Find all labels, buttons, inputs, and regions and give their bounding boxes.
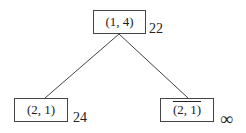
right-child-node: (2, 1) xyxy=(160,98,214,122)
edge-root-left xyxy=(45,34,119,98)
root-node-cost: 22 xyxy=(149,21,163,37)
root-node: (1, 4) xyxy=(93,10,146,34)
edge-root-right xyxy=(119,34,188,98)
root-node-label: (1, 4) xyxy=(105,14,133,30)
left-child-label: (2, 1) xyxy=(27,102,55,118)
left-child-cost: 24 xyxy=(73,110,87,126)
right-child-cost-infinity: ∞ xyxy=(220,109,233,130)
left-child-node: (2, 1) xyxy=(14,98,68,122)
right-child-label-negated: (2, 1) xyxy=(173,102,201,118)
